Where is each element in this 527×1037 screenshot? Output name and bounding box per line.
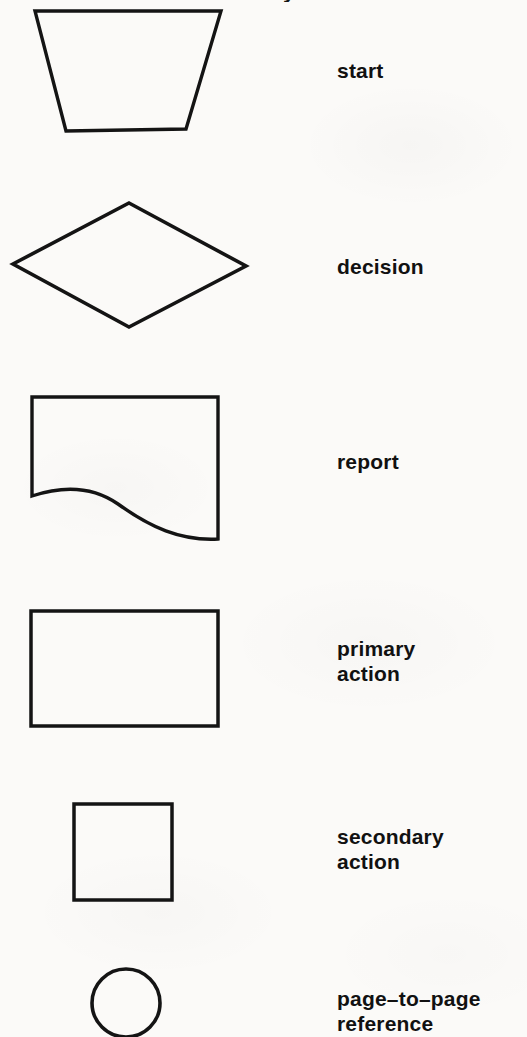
diamond-shape (13, 203, 246, 327)
legend-label-secondary-action: secondary action (337, 824, 444, 874)
legend-label-primary-action: primary action (337, 636, 415, 686)
legend-label-report: report (337, 449, 399, 474)
legend-label-start: start (337, 58, 384, 83)
report-shape (32, 397, 218, 539)
trapezoid-shape (35, 11, 221, 131)
rectangle-shape (31, 611, 218, 726)
legend-label-page-to-page-reference: page–to–page reference (337, 986, 481, 1036)
legend-label-decision: decision (337, 254, 424, 279)
flowchart-legend-page: flowchart symbols start decision report … (0, 0, 527, 1037)
shape-layer (0, 0, 527, 1037)
circle-shape (92, 969, 160, 1037)
square-shape (74, 804, 172, 900)
